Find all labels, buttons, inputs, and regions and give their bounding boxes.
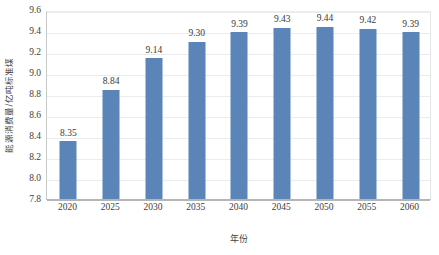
bar-slot: 9.43	[261, 12, 304, 199]
bar-value-label: 9.39	[402, 20, 419, 30]
gridline	[47, 200, 430, 201]
bar[interactable]	[317, 27, 334, 199]
bar-slot: 9.39	[389, 12, 432, 199]
x-axis-tick-label: 2045	[272, 203, 291, 213]
bar[interactable]	[359, 29, 376, 199]
bar-value-label: 9.42	[360, 16, 377, 26]
y-axis-tick-label: 8.8	[29, 90, 41, 100]
bar-value-label: 9.14	[146, 46, 163, 56]
x-axis-tick-label: 2035	[186, 203, 205, 213]
bar-slot: 9.39	[218, 12, 261, 199]
bar[interactable]	[103, 90, 120, 199]
bar[interactable]	[274, 28, 291, 199]
bar-value-label: 9.43	[274, 15, 291, 25]
x-axis-tick-label: 2030	[143, 203, 162, 213]
bar-value-label: 9.39	[231, 20, 248, 30]
bar[interactable]	[402, 32, 419, 199]
bar[interactable]	[60, 141, 77, 199]
bar[interactable]	[188, 42, 205, 200]
y-axis-tick-label: 7.8	[29, 195, 41, 205]
y-axis-title: 能源消费量/亿吨标准煤	[0, 0, 16, 210]
x-axis-tick-label: 2040	[229, 203, 248, 213]
y-axis-tick-label: 9.4	[29, 27, 41, 37]
y-axis-tick-label: 9.6	[29, 6, 41, 16]
y-axis-tick-label: 9.0	[29, 69, 41, 79]
bar-chart: 能源消费量/亿吨标准煤 9.69.49.29.08.88.68.48.28.07…	[0, 0, 439, 255]
y-axis-tick-label: 8.2	[29, 153, 41, 163]
bar-slot: 8.35	[47, 12, 90, 199]
bar[interactable]	[145, 58, 162, 199]
x-axis-title: 年份	[46, 232, 431, 245]
y-axis-tick-label: 9.2	[29, 48, 41, 58]
plot-area: 8.358.849.149.309.399.439.449.429.39	[46, 11, 431, 200]
y-axis-tick-label: 8.4	[29, 132, 41, 142]
bar-slot: 8.84	[90, 12, 133, 199]
x-axis-tick-label: 2020	[58, 203, 77, 213]
x-axis-tick-label: 2025	[101, 203, 120, 213]
bar-slot: 9.44	[304, 12, 347, 199]
bar-value-label: 9.30	[188, 29, 205, 39]
bar-slot: 9.30	[175, 12, 218, 199]
bar-value-label: 8.35	[60, 129, 77, 139]
y-axis-tick-label: 8.0	[29, 174, 41, 184]
bar-slot: 9.42	[346, 12, 389, 199]
y-axis-title-text: 能源消费量/亿吨标准煤	[2, 57, 14, 152]
bar[interactable]	[231, 32, 248, 199]
y-axis-tick-labels: 9.69.49.29.08.88.68.48.28.07.8	[16, 11, 44, 200]
bar-value-label: 9.44	[317, 14, 334, 24]
x-axis-tick-label: 2060	[400, 203, 419, 213]
bar-slot: 9.14	[133, 12, 176, 199]
bar-value-label: 8.84	[103, 77, 120, 87]
x-axis-tick-label: 2050	[315, 203, 334, 213]
x-axis-tick-label: 2055	[357, 203, 376, 213]
y-axis-tick-label: 8.6	[29, 111, 41, 121]
x-axis-tick-labels: 202020252030203520402045205020552060	[46, 203, 431, 219]
bars-layer: 8.358.849.149.309.399.439.449.429.39	[47, 12, 430, 199]
